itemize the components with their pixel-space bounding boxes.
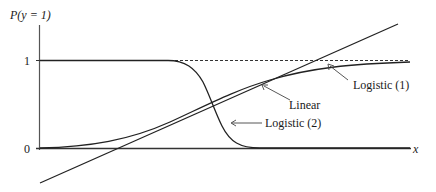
- linear-line: [40, 24, 398, 183]
- logistic2-label: Logistic (2): [265, 116, 321, 130]
- y-axis-label: P(y = 1): [9, 8, 51, 22]
- logistic2-curve: [40, 61, 410, 149]
- chart: P(y = 1) 1 0 x Logistic (1) Linear Logis…: [0, 0, 436, 192]
- logistic1-curve: [40, 62, 410, 148]
- y-tick-label-0: 0: [24, 142, 30, 156]
- logistic1-label: Logistic (1): [353, 78, 409, 92]
- logistic1-arrow: [330, 66, 348, 80]
- linear-label: Linear: [289, 98, 320, 112]
- y-tick-label-1: 1: [24, 54, 30, 68]
- linear-arrow: [264, 86, 290, 100]
- x-axis-label: x: [412, 142, 419, 156]
